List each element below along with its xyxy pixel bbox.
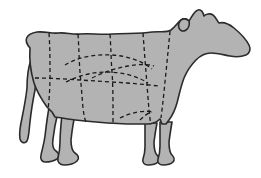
cow-diagram-figure: Side-view silhouette of a cow divided by… <box>0 0 261 178</box>
ear-outline <box>179 19 190 31</box>
cow-diagram-svg <box>0 0 261 178</box>
